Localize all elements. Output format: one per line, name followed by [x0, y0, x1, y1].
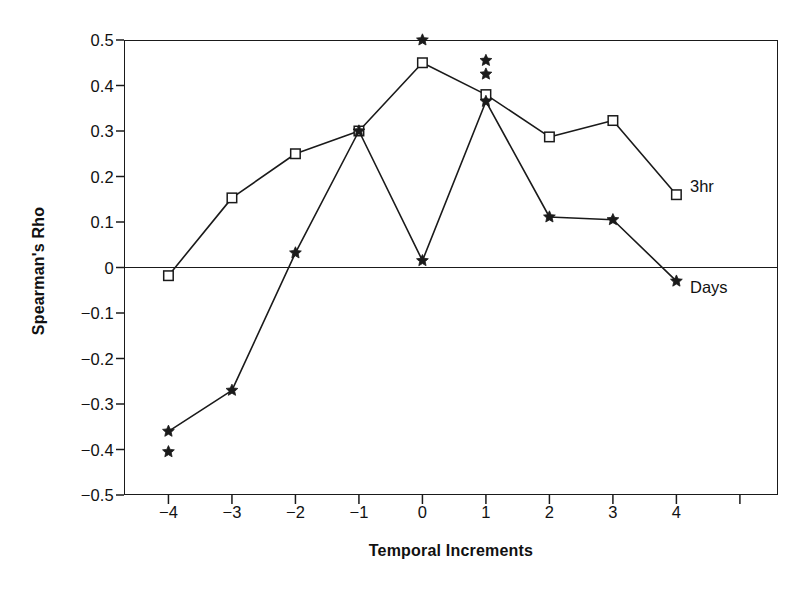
x-tick-label: −1 — [339, 504, 379, 521]
x-tick-label: 4 — [656, 504, 696, 521]
x-axis-tick-labels: −4−3−2−101234 — [0, 0, 810, 598]
x-tick-label: −2 — [275, 504, 315, 521]
x-tick-label: 3 — [593, 504, 633, 521]
series-label-days: Days — [690, 279, 728, 296]
x-axis-title: Temporal Increments — [124, 542, 778, 560]
x-tick-label: −3 — [212, 504, 252, 521]
chart-figure: 0.50.40.30.20.10−0.1−0.2−0.3−0.4−0.5 −4−… — [0, 0, 810, 598]
series-label-3hr: 3hr — [690, 178, 714, 195]
x-tick-label: −4 — [148, 504, 188, 521]
x-tick-label: 1 — [466, 504, 506, 521]
y-axis-title: Spearman's Rho — [30, 146, 48, 396]
x-tick-label: 2 — [529, 504, 569, 521]
x-tick-label: 0 — [402, 504, 442, 521]
